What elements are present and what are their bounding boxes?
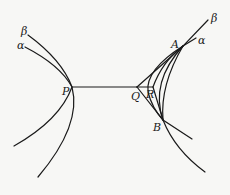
diagram-svg bbox=[0, 0, 230, 195]
label-beta-right: β bbox=[211, 13, 217, 24]
label-A: A bbox=[171, 39, 179, 50]
label-alpha-left: α bbox=[17, 40, 24, 51]
left-beta-curve bbox=[28, 35, 74, 177]
label-alpha-right: α bbox=[198, 35, 205, 46]
inner-curve bbox=[148, 46, 183, 120]
label-Q: Q bbox=[131, 91, 140, 102]
label-beta-left: β bbox=[21, 26, 27, 37]
label-B: B bbox=[153, 122, 161, 133]
diagram-canvas: β α P Q R A B β α bbox=[0, 0, 230, 195]
label-R: R bbox=[146, 89, 154, 100]
rb-line bbox=[153, 87, 163, 120]
label-P: P bbox=[62, 86, 69, 97]
